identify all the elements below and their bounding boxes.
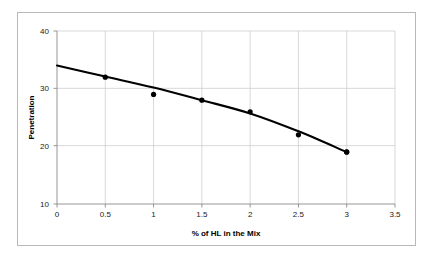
x-tick-label-0.5: 0.5 <box>100 210 112 219</box>
plot-area-background <box>57 31 395 204</box>
x-tick-label-0: 0 <box>55 210 60 219</box>
data-point-2 <box>199 98 204 103</box>
data-point-3 <box>248 109 253 114</box>
data-point-4 <box>296 132 301 137</box>
penetration-vs-hl-scatter-chart: 40 30 20 10 0 0.5 1 1.5 2 2.5 3 3.5 % of… <box>0 0 431 263</box>
y-axis-tickmarks <box>54 31 58 204</box>
y-tick-label-40: 40 <box>40 27 49 36</box>
y-tick-label-10: 10 <box>40 200 49 209</box>
x-axis-tick-labels: 0 0.5 1 1.5 2 2.5 3 3.5 <box>55 210 401 219</box>
y-axis-title: Penetration <box>27 95 36 139</box>
x-tick-label-1: 1 <box>151 210 156 219</box>
y-tick-label-30: 30 <box>40 84 49 93</box>
x-tick-label-2: 2 <box>248 210 253 219</box>
data-point-0 <box>103 75 108 80</box>
x-axis-tickmarks <box>57 204 395 208</box>
x-tick-label-1.5: 1.5 <box>196 210 208 219</box>
x-axis-title: % of HL in the Mix <box>192 229 261 238</box>
x-tick-label-3.5: 3.5 <box>389 210 401 219</box>
y-axis-tick-labels: 40 30 20 10 <box>40 27 49 209</box>
chart-figure: 40 30 20 10 0 0.5 1 1.5 2 2.5 3 3.5 % of… <box>0 0 431 263</box>
x-tick-label-2.5: 2.5 <box>293 210 305 219</box>
data-point-6 <box>344 149 349 154</box>
data-point-1 <box>151 92 156 97</box>
y-tick-label-20: 20 <box>40 142 49 151</box>
x-tick-label-3: 3 <box>344 210 349 219</box>
